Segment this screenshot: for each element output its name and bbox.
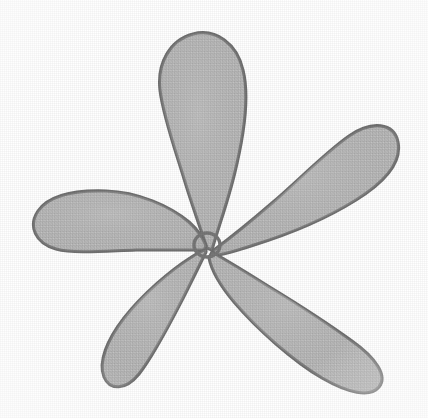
flower-drawing [0,0,428,418]
image-canvas: Flower outline drawing Scanned grayscale… [0,0,428,418]
